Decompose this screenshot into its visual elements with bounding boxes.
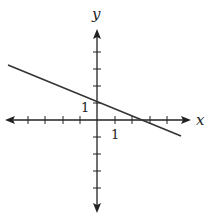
x-unit-label: 1 xyxy=(111,127,119,142)
plotted-line xyxy=(8,65,181,136)
x-axis-label: x xyxy=(196,111,205,129)
y-unit-label: 1 xyxy=(81,100,89,115)
coordinate-plane: y x 1 1 xyxy=(0,0,206,218)
y-axis-label: y xyxy=(91,5,101,23)
